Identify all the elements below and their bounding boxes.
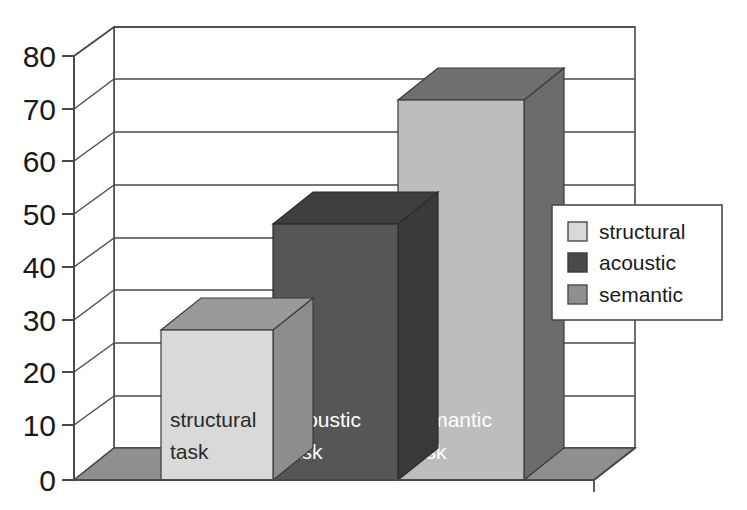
y-tick-label-30: 30 <box>23 304 56 337</box>
legend-item-acoustic[interactable]: acoustic <box>568 251 676 274</box>
y-tick-label-80: 80 <box>23 40 56 73</box>
bar-structural-label-line1: structural <box>170 408 256 431</box>
legend-item-structural[interactable]: structural <box>568 220 685 243</box>
bar-structural[interactable]: structural task <box>161 298 313 480</box>
legend-label-semantic: semantic <box>599 283 683 306</box>
legend-swatch-semantic <box>568 285 587 304</box>
y-tick-label-60: 60 <box>23 145 56 178</box>
y-tick-label-20: 20 <box>23 356 56 389</box>
y-tick-label-0: 0 <box>39 464 56 497</box>
legend-swatch-acoustic <box>568 253 587 272</box>
legend-label-acoustic: acoustic <box>599 251 676 274</box>
bar-chart-3d: 80 70 60 50 40 30 20 10 0 semantic task <box>0 0 747 510</box>
y-tick-label-50: 50 <box>23 198 56 231</box>
legend-swatch-structural <box>568 222 587 241</box>
bar-structural-label-line2: task <box>170 440 209 463</box>
y-tick-label-70: 70 <box>23 93 56 126</box>
bar-acoustic-side <box>398 192 438 480</box>
legend-item-semantic[interactable]: semantic <box>568 283 683 306</box>
legend-label-structural: structural <box>599 220 685 243</box>
y-tick-label-10: 10 <box>23 409 56 442</box>
left-wall <box>74 27 114 480</box>
legend[interactable]: structural acoustic semantic <box>552 205 722 320</box>
chart-container: 80 70 60 50 40 30 20 10 0 semantic task <box>0 0 747 510</box>
y-tick-label-40: 40 <box>23 251 56 284</box>
